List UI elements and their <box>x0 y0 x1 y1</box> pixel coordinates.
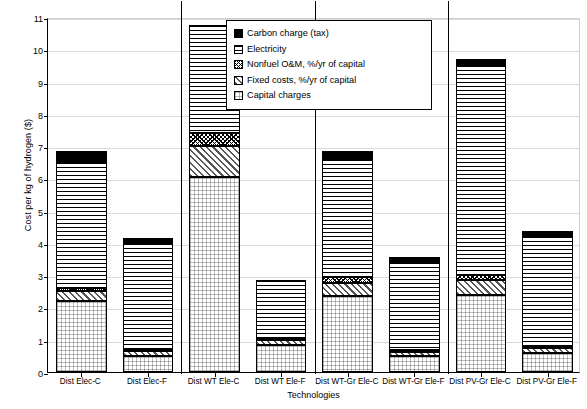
legend-item-label: Electricity <box>247 45 286 54</box>
y-axis-tick-label: 10 <box>33 47 43 56</box>
stacked-bar[interactable] <box>123 238 174 372</box>
legend-item[interactable]: Nonfuel O&M, %/yr of capital <box>234 57 424 73</box>
y-axis-tick-label: 11 <box>34 15 43 24</box>
bar-segment-fixed <box>322 283 373 296</box>
bar-slot[interactable] <box>514 19 581 372</box>
legend-item-label: Carbon charge (tax) <box>247 29 329 38</box>
legend-item-label: Nonfuel O&M, %/yr of capital <box>247 60 365 69</box>
bar-segment-fixed <box>56 291 107 301</box>
y-axis-tick-label: 0 <box>38 370 43 379</box>
bar-segment-elec <box>389 262 440 350</box>
bar-segment-carbon <box>322 151 373 159</box>
stacked-bar[interactable] <box>522 231 573 372</box>
group-separator <box>448 1 449 374</box>
bar-slot[interactable] <box>115 19 182 372</box>
bar-segment-nonfuel <box>189 133 240 146</box>
bar-segment-capital <box>456 295 507 372</box>
chart-figure: Cost per kg of hydrogen ($) Technologies… <box>0 0 587 409</box>
stacked-bar[interactable] <box>322 151 373 372</box>
x-axis-category-label: Dist WT-Gr Ele-F <box>380 377 447 386</box>
bar-segment-capital <box>123 356 174 372</box>
group-separator <box>181 1 182 374</box>
bar-segment-carbon <box>56 151 107 162</box>
chart-legend: Carbon charge (tax)ElectricityNonfuel O&… <box>226 20 432 110</box>
legend-swatch-carbon-icon <box>234 29 243 38</box>
stacked-bar[interactable] <box>56 151 107 372</box>
legend-item[interactable]: Capital charges <box>234 88 424 104</box>
bar-segment-elec <box>256 280 307 338</box>
y-axis-tick-label: 7 <box>38 144 43 153</box>
bar-segment-capital <box>256 345 307 372</box>
y-axis-tick-label: 6 <box>38 176 43 185</box>
bar-slot[interactable] <box>448 19 515 372</box>
y-axis-tick-label: 4 <box>38 240 43 249</box>
y-axis-tick-label: 2 <box>38 305 43 314</box>
bar-segment-elec <box>123 243 174 350</box>
bar-segment-elec <box>322 159 373 277</box>
bar-segment-capital <box>389 356 440 372</box>
legend-swatch-capital-icon <box>234 91 243 100</box>
x-axis-title: Technologies <box>47 390 580 400</box>
stacked-bar[interactable] <box>456 59 507 372</box>
y-axis-tick-label: 3 <box>38 273 43 282</box>
legend-item-label: Fixed costs, %/yr of capital <box>247 76 356 85</box>
x-axis-category-label: Dist Elec-F <box>114 377 181 386</box>
legend-swatch-nonfuel-icon <box>234 60 243 69</box>
x-axis-category-label: Dist PV-Gr Ele-F <box>513 377 580 386</box>
legend-item[interactable]: Electricity <box>234 42 424 58</box>
legend-swatch-fixed-icon <box>234 76 243 85</box>
x-axis-category-label: Dist Elec-C <box>47 377 114 386</box>
x-axis-category-label: Dist WT Ele-C <box>180 377 247 386</box>
y-axis-tick-label: 8 <box>38 111 43 120</box>
y-axis-tick-mark <box>44 374 48 375</box>
bar-segment-capital <box>322 296 373 372</box>
bar-segment-capital <box>189 177 240 372</box>
x-axis-category-label: Dist WT-Gr Ele-C <box>314 377 381 386</box>
bar-segment-capital <box>522 353 573 372</box>
legend-item[interactable]: Carbon charge (tax) <box>234 26 424 42</box>
x-axis-category-label: Dist PV-Gr Ele-C <box>447 377 514 386</box>
bar-segment-elec <box>522 236 573 346</box>
y-axis-tick-label: 5 <box>38 208 43 217</box>
y-axis-tick-label: 9 <box>38 79 43 88</box>
bar-segment-elec <box>56 162 107 288</box>
x-axis-category-label: Dist WT Ele-F <box>247 377 314 386</box>
legend-swatch-elec-icon <box>234 45 243 54</box>
bar-slot[interactable] <box>48 19 115 372</box>
y-axis-title: Cost per kg of hydrogen ($) <box>23 85 33 265</box>
stacked-bar[interactable] <box>389 257 440 372</box>
legend-item[interactable]: Fixed costs, %/yr of capital <box>234 73 424 89</box>
legend-item-label: Capital charges <box>247 91 311 100</box>
bar-segment-capital <box>56 301 107 372</box>
bar-segment-fixed <box>189 146 240 177</box>
bar-segment-fixed <box>456 280 507 295</box>
y-axis-tick-label: 1 <box>38 337 43 346</box>
bar-segment-elec <box>456 65 507 275</box>
stacked-bar[interactable] <box>256 280 307 372</box>
